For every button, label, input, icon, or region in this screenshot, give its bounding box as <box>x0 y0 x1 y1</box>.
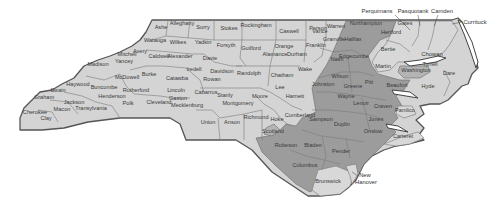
outside-label-chowan: Chowan <box>421 51 442 57</box>
county-label-buncombe: Buncombe <box>91 84 118 90</box>
county-label-rockingham: Rockingham <box>240 22 271 28</box>
county-label-alexander: Alexander <box>167 53 192 59</box>
county-label-cabarrus: Cabarrus <box>194 89 217 95</box>
county-label-wilson: Wilson <box>332 73 349 79</box>
county-label-pitt: Pitt <box>365 79 374 85</box>
county-label-clay: Clay <box>40 115 51 121</box>
county-label-harnett: Harnett <box>286 93 305 99</box>
county-label-granville: Granville <box>323 36 345 42</box>
county-label-lenoir: Lenoir <box>353 100 369 106</box>
county-label-henderson: Henderson <box>98 93 125 99</box>
county-label-franklin: Franklin <box>306 42 326 48</box>
county-label-wayne: Wayne <box>337 93 354 99</box>
county-label-lincoln: Lincoln <box>167 87 185 93</box>
county-label-union: Union <box>201 119 216 125</box>
county-label-halifax: Halifax <box>344 36 361 42</box>
county-label-wilkes: Wilkes <box>170 39 187 45</box>
county-label-swain: Swain <box>50 87 65 93</box>
county-label-burke: Burke <box>142 71 157 77</box>
county-label-greene: Greene <box>344 83 363 89</box>
county-label-craven: Craven <box>374 103 392 109</box>
county-label-mecklenburg: Mecklenburg <box>171 102 203 108</box>
county-label-gaston: Gaston <box>169 95 187 101</box>
county-label-onslow: Onslow <box>364 128 384 134</box>
county-label-hyde: Hyde <box>421 83 434 89</box>
county-label-davie: Davie <box>203 55 217 61</box>
county-label-pender: Pender <box>332 148 350 154</box>
county-label-anson: Anson <box>224 119 240 125</box>
county-label-randolph: Randolph <box>237 70 261 76</box>
county-label-stanly: Stanly <box>217 92 233 98</box>
county-label-hertford: Hertford <box>381 29 401 35</box>
county-label-vance: Vance <box>312 28 327 34</box>
county-label-johnston: Johnston <box>312 81 335 87</box>
county-label-bladen: Bladen <box>304 142 321 148</box>
outside-label-new: New <box>359 172 371 178</box>
county-label-wake: Wake <box>298 66 312 72</box>
outside-label-camden: Camden <box>431 8 453 14</box>
county-label-northampton: Northampton <box>350 20 382 26</box>
county-label-dare: Dare <box>443 70 455 76</box>
county-label-bertie: Bertie <box>381 46 396 52</box>
county-label-caswell: Caswell <box>279 28 299 34</box>
county-label-haywood: Haywood <box>66 81 89 87</box>
outside-label-currituck: Currituck <box>463 19 486 25</box>
county-label-brunswick: Brunswick <box>315 178 341 184</box>
county-label-carteret: Carteret <box>393 133 414 139</box>
county-label-montgomery: Montgomery <box>222 100 253 106</box>
county-label-rutherford: Rutherford <box>123 87 149 93</box>
county-label-alleghany: Alleghany <box>170 20 195 26</box>
county-label-robeson: Robeson <box>275 142 297 148</box>
county-label-stokes: Stokes <box>220 25 237 31</box>
county-label-beaufort: Beaufort <box>386 82 408 88</box>
county-label-rowan: Rowan <box>203 76 220 82</box>
county-label-caldwell: Caldwell <box>148 53 169 59</box>
county-label-pamlico: Pamlico <box>395 107 415 113</box>
county-label-moore: Moore <box>252 93 268 99</box>
county-label-macon: Macon <box>54 106 71 112</box>
outside-label-pasquotank: Pasquotank <box>398 8 429 14</box>
county-label-cleveland: Cleveland <box>147 99 172 105</box>
outside-label-perquimans: Perquimans <box>362 8 393 14</box>
county-label-alamance: Alamance <box>263 51 288 57</box>
county-label-warren: Warren <box>327 23 345 29</box>
county-label-washington: Washington <box>401 67 430 73</box>
county-label-surry: Surry <box>196 24 210 30</box>
county-label-richmond: Richmond <box>243 114 268 120</box>
county-label-tyrrell: Tyrrell <box>422 61 437 67</box>
county-label-guilford: Guilford <box>241 45 261 51</box>
county-label-duplin: Duplin <box>334 121 350 127</box>
nc-county-map: AsheAlleghanySurryStokesRockinghamCaswel… <box>0 0 496 211</box>
county-label-martin: Martin <box>375 63 391 69</box>
county-label-jones: Jones <box>369 116 384 122</box>
county-label-hoke: Hoke <box>270 116 283 122</box>
county-label-iredell: Iredell <box>186 66 201 72</box>
county-label-lee: Lee <box>275 84 284 90</box>
county-label-yancey: Yancey <box>115 58 133 64</box>
outside-label-hanover: Hanover <box>355 179 377 185</box>
county-label-mcdowell: McDowell <box>115 74 139 80</box>
county-label-polk: Polk <box>123 100 134 106</box>
county-label-graham: Graham <box>34 94 55 100</box>
county-label-davidson: Davidson <box>210 68 233 74</box>
county-label-columbus: Columbus <box>292 162 317 168</box>
county-label-ashe: Ashe <box>155 24 168 30</box>
county-label-mitchell: Mitchell <box>118 51 137 57</box>
county-label-catawba: Catawba <box>166 75 189 81</box>
county-label-edgecombe: Edgecombe <box>339 53 369 59</box>
county-label-scotland: Scotland <box>262 128 284 134</box>
county-label-gates: Gates <box>398 20 413 26</box>
county-label-orange: Orange <box>275 43 294 49</box>
county-label-chatham: Chatham <box>271 72 294 78</box>
county-label-transylvania: Transylvania <box>75 105 107 111</box>
county-label-watauga: Watauga <box>144 37 167 43</box>
county-label-forsyth: Forsyth <box>217 42 236 48</box>
county-label-yadkin: Yadkin <box>195 39 212 45</box>
county-label-sampson: Sampson <box>309 116 333 122</box>
county-label-madison: Madison <box>87 61 108 67</box>
county-label-durham: Durham <box>287 51 307 57</box>
